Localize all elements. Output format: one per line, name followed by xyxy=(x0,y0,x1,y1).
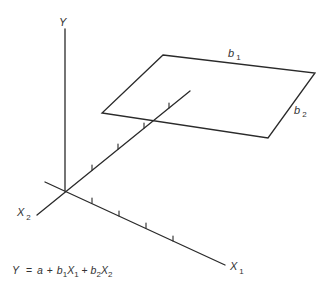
x2-axis xyxy=(37,91,190,215)
plane-edge-b2-label: b2 xyxy=(294,104,307,119)
regression-equation: Y = a + b1X1 + b2X2 xyxy=(12,264,113,279)
x1-axis-label: X1 xyxy=(229,260,244,276)
plane-edge-b1-label: b1 xyxy=(228,47,241,62)
x1-axis xyxy=(45,182,225,265)
x1-ticks xyxy=(92,198,173,241)
regression-plane-diagram: Y X1 X2 b1 b2 Y = a + b1X1 + b2X2 xyxy=(0,0,331,295)
x2-axis-label: X2 xyxy=(16,206,31,222)
y-axis-label: Y xyxy=(59,16,67,28)
regression-plane xyxy=(102,55,315,138)
